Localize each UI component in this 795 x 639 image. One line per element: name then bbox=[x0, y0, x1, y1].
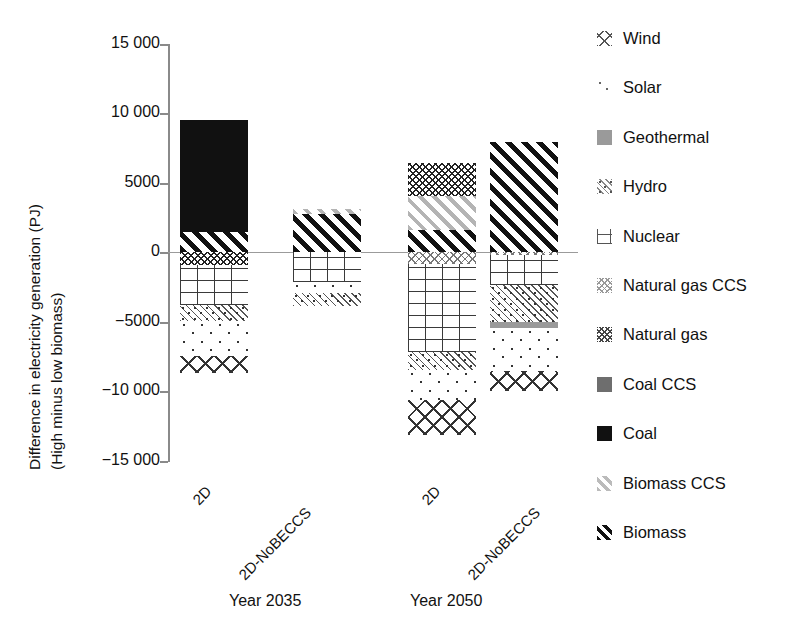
legend-item-wind[interactable]: Wind bbox=[597, 28, 792, 49]
bar-segment-natural-gas-ccs bbox=[408, 252, 476, 264]
legend-label-solar: Solar bbox=[623, 78, 662, 97]
legend-label-coal: Coal bbox=[623, 424, 657, 443]
y-axis-tick-15000 bbox=[160, 44, 168, 46]
bar-segment-biomass-ccs bbox=[408, 196, 476, 230]
y-tick-label-15000: 15 000 bbox=[60, 35, 160, 51]
chart-legend: Wind Solar Geothermal Hydro Nuclear Natu… bbox=[597, 28, 792, 571]
bar-segment-solar bbox=[293, 282, 361, 293]
legend-label-biomass: Biomass bbox=[623, 523, 686, 542]
bar-segment-natural-gas bbox=[408, 163, 476, 196]
bar-segment-wind bbox=[490, 371, 558, 391]
bar-segment-coal bbox=[180, 120, 248, 232]
y-tick-label-minus15000: −15 000 bbox=[60, 452, 160, 468]
legend-label-coal-ccs: Coal CCS bbox=[623, 375, 696, 394]
bar-segment-natural-gas bbox=[180, 252, 248, 265]
x-group-label-year-2050: Year 2050 bbox=[410, 592, 482, 610]
bar-segment-nuclear bbox=[490, 255, 558, 285]
legend-label-natural-gas-ccs: Natural gas CCS bbox=[623, 276, 747, 295]
legend-item-coal[interactable]: Coal bbox=[597, 423, 792, 444]
legend-item-coal-ccs[interactable]: Coal CCS bbox=[597, 374, 792, 395]
legend-label-biomass-ccs: Biomass CCS bbox=[623, 474, 726, 493]
geothermal-swatch-icon bbox=[597, 130, 612, 145]
legend-item-solar[interactable]: Solar bbox=[597, 77, 792, 98]
y-axis-title-line1: Difference in electricity generation (PJ… bbox=[26, 204, 44, 470]
legend-label-geothermal: Geothermal bbox=[623, 128, 709, 147]
bar-segment-solar bbox=[408, 370, 476, 400]
y-tick-label-minus10000: −10 000 bbox=[60, 382, 160, 398]
y-axis-tick-minus5000 bbox=[160, 322, 168, 324]
bar-segment-hydro bbox=[490, 285, 558, 322]
bar-segment-hydro bbox=[293, 293, 361, 306]
legend-item-geothermal[interactable]: Geothermal bbox=[597, 127, 792, 148]
bar-segment-nuclear bbox=[408, 264, 476, 352]
biomass-ccs-swatch-icon bbox=[597, 476, 612, 491]
biomass-swatch-icon bbox=[597, 525, 612, 540]
y-tick-label-10000: 10 000 bbox=[60, 104, 160, 120]
legend-label-wind: Wind bbox=[623, 29, 661, 48]
legend-item-biomass[interactable]: Biomass bbox=[597, 522, 792, 543]
solar-swatch-icon bbox=[597, 80, 612, 95]
natural-gas-ccs-swatch-icon bbox=[597, 278, 612, 293]
bar-segment-wind bbox=[180, 356, 248, 373]
legend-item-natural-gas[interactable]: Natural gas bbox=[597, 324, 792, 345]
coal-swatch-icon bbox=[597, 426, 612, 441]
y-tick-label-minus5000: −5000 bbox=[60, 313, 160, 329]
bar-segment-nuclear bbox=[180, 265, 248, 305]
y-tick-label-5000: 5000 bbox=[60, 174, 160, 190]
bar-segment-hydro bbox=[180, 305, 248, 321]
y-axis-tick-minus15000 bbox=[160, 461, 168, 463]
coal-ccs-swatch-icon bbox=[597, 377, 612, 392]
bar-segment-nuclear bbox=[293, 252, 361, 282]
natural-gas-swatch-icon bbox=[597, 327, 612, 342]
y-axis-tick-10000 bbox=[160, 113, 168, 115]
chart-figure: Difference in electricity generation (PJ… bbox=[0, 0, 795, 639]
y-axis-tick-0 bbox=[160, 252, 168, 254]
bar-2035-2d-nobeccs[interactable] bbox=[293, 0, 361, 639]
legend-item-natural-gas-ccs[interactable]: Natural gas CCS bbox=[597, 275, 792, 296]
bar-segment-biomass bbox=[180, 232, 248, 252]
hydro-swatch-icon bbox=[597, 179, 612, 194]
bar-segment-biomass bbox=[490, 142, 558, 252]
bar-2035-2d[interactable] bbox=[180, 0, 248, 639]
bar-segment-biomass bbox=[293, 214, 361, 252]
legend-label-nuclear: Nuclear bbox=[623, 227, 680, 246]
nuclear-swatch-icon bbox=[597, 229, 612, 244]
y-axis-tick-minus10000 bbox=[160, 391, 168, 393]
legend-label-hydro: Hydro bbox=[623, 177, 667, 196]
legend-item-hydro[interactable]: Hydro bbox=[597, 176, 792, 197]
legend-item-biomass-ccs[interactable]: Biomass CCS bbox=[597, 473, 792, 494]
legend-item-nuclear[interactable]: Nuclear bbox=[597, 226, 792, 247]
legend-label-natural-gas: Natural gas bbox=[623, 325, 707, 344]
bar-segment-solar bbox=[180, 321, 248, 356]
bar-segment-hydro bbox=[408, 352, 476, 370]
wind-swatch-icon bbox=[597, 31, 612, 46]
x-group-label-year-2035: Year 2035 bbox=[229, 592, 301, 610]
y-axis-tick-5000 bbox=[160, 183, 168, 185]
bar-segment-wind bbox=[408, 400, 476, 435]
y-tick-label-0: 0 bbox=[60, 243, 160, 259]
bar-segment-biomass bbox=[408, 230, 476, 252]
bar-2050-2d[interactable] bbox=[408, 0, 476, 639]
bar-segment-solar bbox=[490, 328, 558, 371]
